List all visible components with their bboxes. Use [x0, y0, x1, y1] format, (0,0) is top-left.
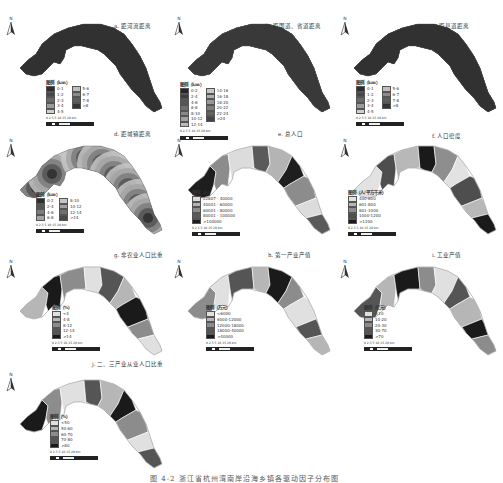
legend-label: 1000-1200: [359, 213, 381, 218]
scale-bar: 0 2.5 5 10 15 20 km: [192, 226, 240, 236]
legend-label: 12000-18000: [217, 323, 244, 328]
map-legend: 图例（亿元）<1010-2020-3030-70>700 2.5 5 10 15…: [364, 305, 412, 351]
map-panel-g: Ng. 非农业人口比重图例（%）<44-88-1212-14>140 2.5 5…: [2, 245, 167, 363]
legend-label: >8: [393, 103, 399, 108]
legend-label: 4-5: [57, 109, 64, 114]
legend-swatch: [46, 109, 55, 115]
map-legend: 图例（%）<5050-6060-7070-80>800 2.5 5 10 15 …: [50, 414, 98, 460]
north-label: N: [174, 259, 184, 264]
panel-title: h. 第一产业产值: [268, 251, 311, 259]
map-panel-i: Ni. 工业产值图例（亿元）<1010-2020-3030-70>700 2.5…: [336, 245, 501, 363]
legend-label: 22807 - 40000: [203, 196, 232, 201]
north-label: N: [6, 372, 16, 377]
township-region: [418, 267, 436, 293]
legend-swatch: [59, 215, 68, 221]
scale-bar-label: 0 2.5 5 10 15 20 km: [50, 450, 98, 455]
map-panel-e: Ne. 总人口图例（人）22807 - 4000040001 - 6000060…: [170, 124, 335, 242]
township-region: [228, 267, 254, 301]
map-legend: 图例（人/平方千米）400-600601-800801-10001000-120…: [348, 190, 396, 236]
north-arrow-icon: N: [340, 16, 350, 38]
north-label: N: [6, 259, 16, 264]
township-region: [252, 146, 270, 172]
legend-item: >14: [59, 215, 84, 221]
legend-label: >1200: [359, 219, 373, 224]
legend-label: 40001 - 60000: [203, 202, 232, 207]
legend-label: 4-5: [367, 109, 374, 114]
legend-label: 400-600: [359, 196, 376, 201]
legend-title: 图例（%）: [50, 414, 98, 419]
map-panel-c: Nc. 距县道距离图例（km）0-11-22-33-44-55-66-77-8>…: [336, 2, 501, 120]
legend-label: >24: [217, 116, 225, 121]
panel-title: i. 工业产值: [432, 251, 461, 259]
north-arrow-icon: N: [174, 16, 184, 38]
legend-label: 60001 - 80000: [203, 208, 232, 213]
legend-item: 4-5: [356, 109, 379, 115]
scale-bar-label: 0 2.5 5 10 15 20 km: [192, 226, 240, 231]
legend-label: <6000: [217, 311, 231, 316]
scale-bar-label: 0 2.5 5 10 15 20 km: [46, 116, 94, 121]
legend-label: >40000: [217, 334, 233, 339]
scale-bar-label: 0 2.5 5 10 15 20 km: [52, 341, 100, 346]
map-panel-f: Nf. 人口密度图例（人/平方千米）400-600601-800801-1000…: [336, 124, 501, 242]
legend-swatch: [206, 334, 215, 340]
legend-swatch: [72, 103, 81, 109]
north-arrow-icon: N: [340, 259, 350, 281]
legend-item: 4-5: [46, 109, 69, 115]
legend-label: <50: [61, 420, 69, 425]
map-panel-j: Nj. 二、三产业从业人口比重图例（%）<5050-6060-7070-80>8…: [2, 358, 167, 476]
figure-caption: 图 4-2 浙江省杭州湾南岸沿海乡镇各驱动因子分布图: [150, 473, 339, 483]
north-label: N: [6, 16, 16, 21]
legend-item: >14: [52, 334, 100, 340]
township-region: [252, 267, 270, 293]
legend-title: 图例（%）: [52, 305, 100, 310]
scale-bar-graphic: [52, 347, 100, 351]
township-region: [60, 380, 86, 414]
town-buffer-ring: [47, 169, 57, 179]
north-arrow-icon: N: [174, 138, 184, 160]
north-label: N: [174, 16, 184, 21]
legend-label: 80001 - 100000: [203, 213, 235, 218]
scale-bar-graphic: [206, 347, 254, 351]
legend-title: 图例（km）: [356, 80, 404, 85]
legend-label: 6-8: [47, 215, 54, 220]
legend-title: 图例（人/平方千米）: [348, 190, 396, 195]
legend-label: >8: [83, 103, 89, 108]
north-arrow-icon: N: [340, 138, 350, 160]
north-arrow-icon: N: [6, 16, 16, 38]
township-region: [84, 267, 102, 293]
north-arrow-icon: N: [174, 259, 184, 281]
scale-bar: 0 2.5 5 10 15 20 km: [364, 341, 412, 351]
north-label: N: [340, 16, 350, 21]
scale-bar: 0 2.5 5 10 15 20 km: [50, 450, 98, 460]
legend-label: >100000: [203, 219, 222, 224]
township-region: [84, 380, 102, 406]
legend-item: >8: [382, 103, 405, 109]
township-region: [20, 400, 48, 432]
map-legend: 图例（km）0-22-44-66-88-1010-1212-14>140 2.5…: [36, 192, 84, 233]
scale-bar-label: 0 2.5 5 10 15 20 km: [348, 226, 396, 231]
legend-swatch: [192, 219, 201, 225]
panel-title: f. 人口密度: [432, 132, 461, 140]
map-panel-a: Na. 距河流距离图例（km）0-11-22-33-44-55-66-77-8>…: [2, 2, 167, 120]
map-i: [336, 245, 501, 363]
north-arrow-icon: N: [6, 372, 16, 394]
north-label: N: [174, 138, 184, 143]
legend-item: >24: [206, 116, 229, 122]
legend-swatch: [50, 443, 59, 449]
north-arrow-icon: N: [6, 138, 16, 160]
legend-label: >80: [61, 443, 69, 448]
scale-bar-label: 0 2.5 5 10 15 20 km: [356, 116, 404, 121]
map-panel-d: Nd. 距城镇距离图例（km）0-22-44-66-88-1010-1212-1…: [2, 124, 167, 242]
legend-swatch: [382, 103, 391, 109]
map-panel-h: Nh. 第一产业产值图例（万元）<60006000-1200012000-180…: [170, 245, 335, 363]
legend-swatch: [356, 109, 365, 115]
legend-item: >40000: [206, 334, 254, 340]
legend-label: <10: [375, 311, 383, 316]
panel-title: e. 总人口: [278, 130, 303, 138]
township-region: [394, 146, 420, 180]
legend-item: >1200: [348, 219, 396, 225]
panel-title: j. 二、三产业从业人口比重: [92, 360, 163, 368]
legend-label: 8-12: [63, 323, 72, 328]
legend-swatch: [36, 215, 45, 221]
legend-swatch: [52, 334, 61, 340]
